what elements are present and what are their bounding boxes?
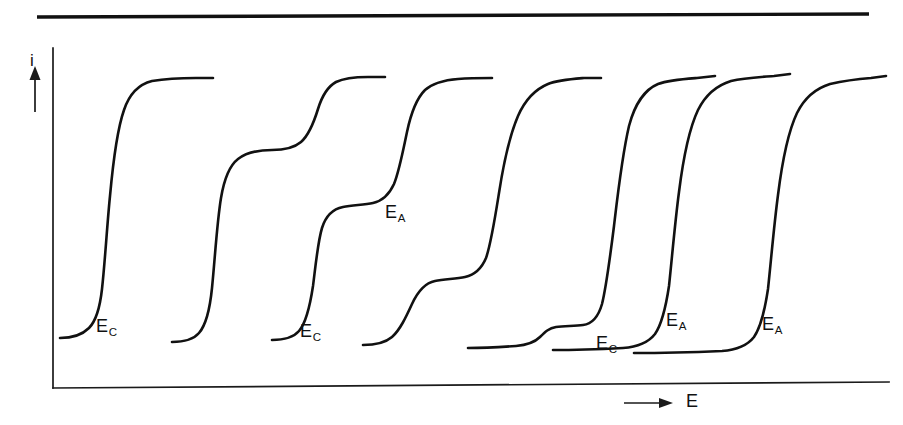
y-axis-up-arrow-icon bbox=[30, 66, 41, 112]
label-ea-wave-7: EA bbox=[762, 315, 782, 333]
label-ea-wave-6: EA bbox=[666, 311, 686, 329]
label-ec-wave-2-sub: C bbox=[313, 331, 322, 343]
x-axis-label: E bbox=[686, 392, 698, 410]
label-ec-wave-5: EC bbox=[596, 334, 617, 352]
label-ec-wave-1-base: E bbox=[96, 316, 108, 336]
label-ec-wave-1: EC bbox=[96, 317, 117, 335]
label-ea-wave-3-base: E bbox=[385, 202, 397, 222]
label-ec-wave-5-sub: C bbox=[609, 343, 618, 355]
polarographic-waves-plot bbox=[0, 0, 903, 425]
label-ea-wave-7-sub: A bbox=[775, 324, 783, 336]
label-ec-wave-1-sub: C bbox=[109, 326, 118, 338]
wave-curve-3 bbox=[272, 78, 492, 340]
label-ea-wave-7-base: E bbox=[762, 314, 774, 334]
x-axis-right-arrow-icon bbox=[624, 398, 673, 408]
wave-curve-2 bbox=[172, 77, 385, 342]
figure-container: i E EC EC EA EC EA EA bbox=[0, 0, 903, 425]
y-axis-label: i bbox=[30, 52, 34, 69]
label-ec-wave-5-base: E bbox=[596, 333, 608, 353]
label-ea-wave-3-sub: A bbox=[398, 212, 406, 224]
label-ec-wave-2-base: E bbox=[300, 321, 312, 341]
label-ea-wave-6-sub: A bbox=[679, 320, 687, 332]
top-rule-line bbox=[37, 14, 869, 17]
label-ea-wave-6-base: E bbox=[666, 310, 678, 330]
wave-curve-6 bbox=[553, 74, 790, 350]
x-axis-line bbox=[53, 382, 889, 388]
wave-curve-5 bbox=[468, 76, 715, 348]
wave-curve-1 bbox=[60, 78, 213, 338]
label-ec-wave-2: EC bbox=[300, 322, 321, 340]
label-ea-wave-3: EA bbox=[385, 203, 405, 221]
